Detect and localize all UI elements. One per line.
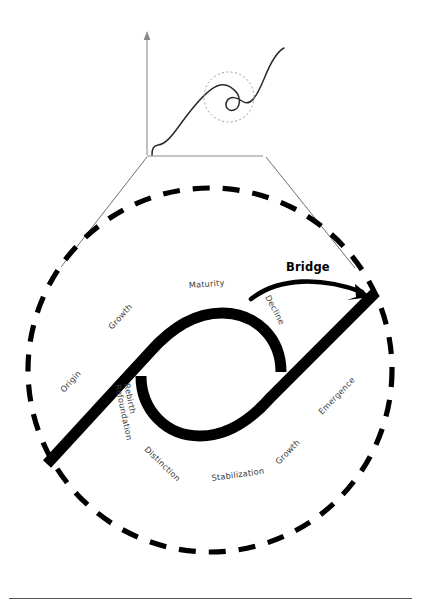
label-decline: Decline [263, 293, 287, 326]
label-growth-outer: Growth [106, 302, 134, 332]
label-maturity: Maturity [188, 278, 224, 290]
inset-y-axis-arrowhead [144, 31, 151, 40]
label-bridge: Bridge [286, 260, 330, 274]
label-emergence: Emergence [316, 375, 357, 417]
inset-growth-curve [152, 48, 284, 155]
figure-page: Bridge Maturity Decline Growth Origin Re… [0, 0, 421, 616]
label-origin: Origin [58, 368, 83, 394]
inset-group [61, 31, 355, 268]
label-growth-inner: Growth [273, 437, 302, 466]
outer-s-curve [47, 313, 281, 464]
spiral-cycle-diagram: Bridge Maturity Decline Growth Origin Re… [0, 0, 421, 616]
inner-spiral-curve [141, 292, 376, 436]
magnifier-line-right [266, 157, 355, 268]
label-stabilization: Stabilization [211, 466, 265, 483]
dashed-cycle-boundary [28, 188, 392, 552]
label-distinction: Distinction [143, 444, 183, 483]
inset-highlight-circle [204, 72, 254, 122]
